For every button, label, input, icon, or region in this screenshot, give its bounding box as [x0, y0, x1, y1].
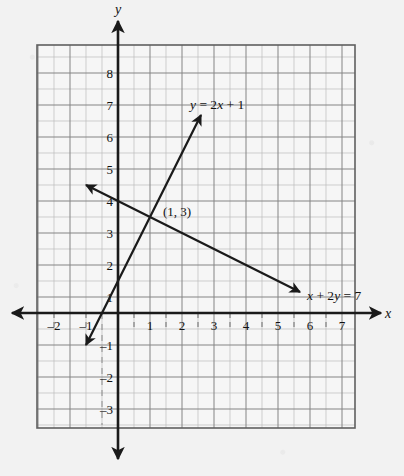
y-tick-label: 7	[107, 98, 114, 113]
y-tick-label: –2	[99, 370, 113, 385]
x-tick-label: 2	[179, 318, 186, 333]
y-tick-label: 8	[107, 66, 114, 81]
x-axis-label: x	[384, 306, 392, 321]
line2-equation-label: x + 2y = 7	[306, 288, 361, 303]
y-tick-label: –1	[99, 338, 113, 353]
x-tick-label: –2	[47, 318, 61, 333]
x-tick-label: 5	[275, 318, 282, 333]
y-tick-label: 5	[107, 162, 114, 177]
intersection-point-label: (1, 3)	[163, 204, 191, 219]
y-axis-label: y	[113, 2, 122, 17]
figure-page: x y –2 –1 1 2 3 4 5 6 7 –3 –2 –1 1 2 3 4…	[0, 0, 404, 476]
coordinate-plane-figure: x y –2 –1 1 2 3 4 5 6 7 –3 –2 –1 1 2 3 4…	[0, 0, 404, 476]
x-tick-label: 3	[211, 318, 218, 333]
x-tick-label: 7	[339, 318, 346, 333]
y-tick-label: 6	[107, 130, 114, 145]
x-tick-label: –1	[79, 318, 93, 333]
line1-equation-label: y = 2x + 1	[188, 97, 244, 112]
x-tick-label: 6	[307, 318, 314, 333]
y-tick-label: 3	[107, 226, 114, 241]
y-tick-label: 2	[107, 258, 114, 273]
y-tick-label: –3	[99, 402, 113, 417]
x-tick-label: 4	[243, 318, 250, 333]
x-tick-label: 1	[147, 318, 154, 333]
